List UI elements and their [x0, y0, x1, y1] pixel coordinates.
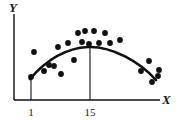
data-point	[46, 62, 52, 68]
data-point	[107, 40, 113, 46]
data-point	[156, 67, 162, 73]
x-tick-label-15: 15	[85, 106, 97, 118]
scatter-plot-figure: Y X 1 15	[0, 0, 176, 122]
data-point	[31, 49, 37, 55]
data-point	[86, 41, 92, 47]
data-point	[75, 30, 81, 36]
plot-canvas: Y X 1 15	[0, 0, 176, 122]
data-point	[41, 68, 47, 74]
data-point	[58, 71, 64, 77]
data-point	[149, 79, 155, 85]
data-point	[82, 28, 88, 34]
data-point-group	[28, 28, 162, 85]
x-tick-label-1: 1	[28, 106, 34, 118]
data-point	[51, 63, 57, 69]
x-axis-label: X	[161, 92, 171, 107]
y-axis-label: Y	[9, 0, 18, 15]
data-point	[91, 28, 97, 34]
data-point	[146, 58, 152, 64]
data-point	[79, 39, 85, 45]
data-point	[102, 30, 108, 36]
data-point	[28, 74, 34, 80]
data-point	[71, 57, 77, 63]
data-point	[117, 37, 123, 43]
data-point	[138, 68, 144, 74]
data-point	[55, 44, 61, 50]
data-point	[96, 40, 102, 46]
data-point	[65, 40, 71, 46]
data-point	[155, 73, 161, 79]
